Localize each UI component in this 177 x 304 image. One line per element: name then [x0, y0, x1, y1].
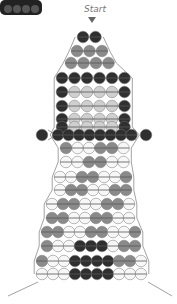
bead-row-19 [36, 268, 147, 280]
bead-row-12 [54, 171, 132, 183]
bead-row-11 [60, 156, 129, 168]
bead-row-15 [46, 212, 135, 224]
bead-pattern-diagram [0, 0, 177, 304]
bead-row-14 [46, 198, 135, 210]
bead-row-4 [56, 72, 130, 84]
bead-row-18 [36, 255, 147, 267]
bead-row-13 [54, 184, 132, 196]
thread-exit-left [8, 282, 38, 296]
bead-row-3 [65, 57, 114, 69]
bead-row-5 [56, 86, 130, 98]
bead-row-16 [41, 226, 141, 238]
arm-bead-left [36, 129, 48, 141]
bead-row-2 [71, 45, 108, 57]
bead-row-17 [41, 240, 141, 252]
bead-row-1 [77, 31, 101, 43]
bead-row-9 [52, 129, 137, 141]
arm-bead-right [140, 129, 152, 141]
bead-row-7 [56, 113, 130, 125]
thread-exit-right [148, 282, 172, 296]
bead-row-10 [60, 142, 129, 154]
thread-left-outline [34, 37, 75, 274]
bead-row-6 [56, 100, 130, 112]
